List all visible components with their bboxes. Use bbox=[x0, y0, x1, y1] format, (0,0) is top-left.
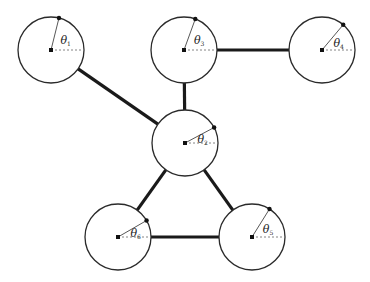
rim-point bbox=[193, 17, 197, 21]
diagram-canvas: θ1θ3θ4θ2θ6θ5 bbox=[0, 0, 370, 282]
edge-n2-n6 bbox=[137, 170, 166, 210]
node-n4: θ4 bbox=[289, 17, 355, 83]
node-n3: θ3 bbox=[151, 17, 217, 83]
center-point bbox=[250, 235, 254, 239]
center-point bbox=[320, 48, 324, 52]
graph-diagram: θ1θ3θ4θ2θ6θ5 bbox=[0, 0, 370, 282]
center-point bbox=[116, 235, 120, 239]
center-point bbox=[182, 48, 186, 52]
edge-n2-n5 bbox=[204, 170, 233, 210]
rim-point bbox=[212, 125, 216, 129]
node-n2: θ2 bbox=[152, 110, 218, 176]
nodes-layer: θ1θ3θ4θ2θ6θ5 bbox=[18, 16, 355, 270]
node-n6: θ6 bbox=[85, 204, 151, 270]
rim-point bbox=[57, 16, 61, 20]
node-n5: θ5 bbox=[219, 204, 285, 270]
node-n1: θ1 bbox=[18, 16, 84, 83]
center-point bbox=[49, 48, 53, 52]
rim-point bbox=[341, 23, 345, 27]
rim-point bbox=[267, 207, 271, 211]
rim-point bbox=[144, 218, 148, 222]
edge-n1-n2 bbox=[78, 69, 158, 124]
center-point bbox=[183, 141, 187, 145]
